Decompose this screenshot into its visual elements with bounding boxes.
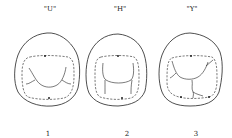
pattern-label-y: "Y" xyxy=(186,5,197,13)
groove-right-branch-3 xyxy=(206,60,213,66)
panel-number-1: 1 xyxy=(46,130,50,138)
groove-stem-fork-3 xyxy=(193,92,203,96)
lingual-groove-right-1 xyxy=(62,80,71,84)
distal-pit-right-3 xyxy=(208,96,210,98)
panel-number-3: 3 xyxy=(194,130,198,138)
groove-left-branch-3 xyxy=(170,73,176,78)
groove-stem-3 xyxy=(192,80,193,98)
central-groove-y xyxy=(172,61,208,79)
pattern-label-u: "U" xyxy=(44,5,56,13)
groove-right-leg-2 xyxy=(131,80,132,94)
groove-pattern-diagram: "U" 1 "H" 2 "Y" 3 xyxy=(0,0,232,138)
panel-h-pattern: "H" 2 xyxy=(86,5,147,138)
lingual-groove-left-1 xyxy=(26,80,35,84)
panel-number-2: 2 xyxy=(125,130,129,138)
pattern-label-h: "H" xyxy=(114,5,127,13)
central-groove-u xyxy=(29,67,66,87)
marginal-ridge-dashed-1 xyxy=(22,56,74,100)
central-groove-h xyxy=(103,63,134,83)
mesial-pit-3 xyxy=(190,55,192,57)
distal-pit-2 xyxy=(121,97,123,99)
mesial-pit-2 xyxy=(117,55,119,57)
distal-pit-1 xyxy=(48,97,50,99)
panel-u-pattern: "U" 1 xyxy=(15,5,80,138)
marginal-ridge-dashed-3 xyxy=(167,56,217,99)
panel-y-pattern: "Y" 3 xyxy=(159,5,222,138)
distal-pit-left-3 xyxy=(180,96,182,98)
tooth-outline-1 xyxy=(15,33,80,106)
mesial-pit-1 xyxy=(44,55,46,57)
